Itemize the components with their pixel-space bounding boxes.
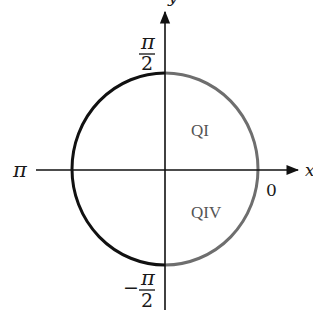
unit-circle-diagram: x y π 2 − π 2 π 0 QI QIV: [0, 0, 313, 310]
left-half-arc: [72, 73, 165, 265]
label-pi-over-2: π 2: [139, 30, 156, 74]
label-negative-pi-over-2: − π 2: [123, 266, 156, 310]
quadrant-label-qi: QI: [191, 121, 209, 140]
svg-text:π: π: [140, 30, 156, 54]
y-axis-label: y: [167, 0, 178, 6]
svg-text:2: 2: [141, 289, 153, 310]
svg-text:−: −: [123, 276, 139, 298]
quadrant-label-qiv: QIV: [191, 203, 222, 222]
x-axis-label: x: [305, 160, 313, 180]
right-half-arc: [165, 73, 258, 265]
label-pi: π: [12, 158, 28, 182]
svg-text:2: 2: [141, 52, 153, 74]
svg-text:π: π: [140, 266, 156, 290]
label-zero: 0: [266, 180, 277, 200]
